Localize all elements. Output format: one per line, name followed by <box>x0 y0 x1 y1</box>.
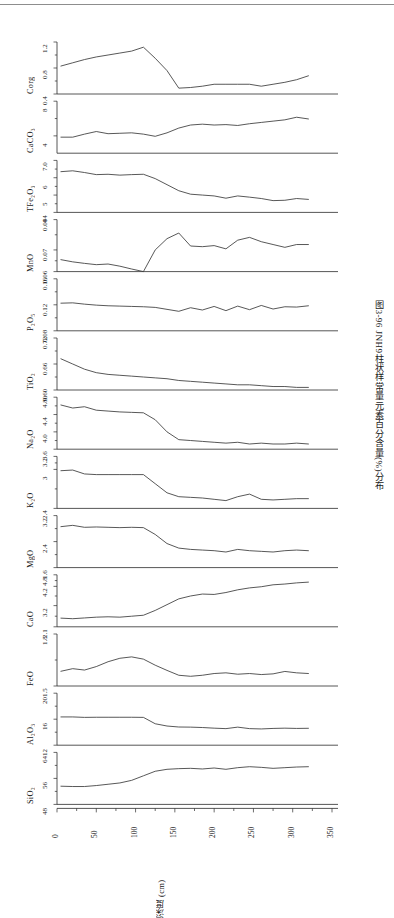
series-line-sio2 <box>61 767 309 787</box>
series-line-mgo <box>61 525 309 552</box>
series-line-corg <box>61 47 309 88</box>
y-axis-title-cao: CaO <box>26 577 35 627</box>
x-tick-label: 100 <box>130 814 139 838</box>
y-tick-label: 0.8 <box>41 57 49 79</box>
y-tick-label: 0.72 <box>41 327 49 349</box>
series-line-feo <box>61 657 309 676</box>
y-axis-title-na2o: Na₂O <box>26 399 35 449</box>
series-line-caco3 <box>61 117 309 137</box>
y-tick-label: 3 <box>41 458 49 480</box>
x-tick-label: 300 <box>287 814 296 838</box>
series-line-na2o <box>61 405 309 444</box>
y-tick-label: 64 <box>41 741 49 763</box>
x-tick-label: 50 <box>90 814 99 838</box>
y-axis-title-p2o5: P₂O₅ <box>26 281 35 331</box>
y-tick-label: 0.16 <box>41 268 49 290</box>
y-axis-title-tfe2o3: TFe₂O₃ <box>26 162 35 212</box>
y-axis-title-mno: MnO <box>26 222 35 272</box>
y-tick-label: 16 <box>41 708 49 730</box>
series-line-k2o <box>61 470 309 501</box>
y-tick-label: 3.2 <box>41 595 49 617</box>
y-tick-label: 0.12 <box>41 294 49 316</box>
y-tick-label: 8 <box>41 90 49 112</box>
y-axis-title-caco3: CaCO₃ <box>26 103 35 153</box>
y-tick-label: 20 <box>41 682 49 704</box>
x-axis-title: 深度 (cm) <box>155 840 167 918</box>
y-tick-label: 1.8 <box>41 623 49 645</box>
series-line-mno <box>61 233 309 272</box>
y-tick-label: 0.66 <box>41 353 49 375</box>
y-tick-label: 0.084 <box>41 209 49 231</box>
x-tick-label: 350 <box>326 814 335 838</box>
x-tick-label: 200 <box>208 814 217 838</box>
x-tick-label: 0 <box>51 814 60 838</box>
series-line-tfe2o3 <box>61 171 309 201</box>
series-line-tio2 <box>61 359 309 388</box>
y-axis-title-feo: FeO <box>26 636 35 686</box>
y-axis-title-sio2: SiO₂ <box>26 754 35 804</box>
y-tick-label: 1.2 <box>41 31 49 53</box>
y-tick-label: 48 <box>41 793 49 815</box>
y-axis-title-al2o3: Al₂O₃ <box>26 695 35 745</box>
series-line-al2o3 <box>61 717 309 729</box>
y-axis-title-mgo: MgO <box>26 518 35 568</box>
y-tick-label: 4 <box>41 125 49 147</box>
y-tick-label: 0.07 <box>41 239 49 261</box>
y-tick-label: 3.2 <box>41 505 49 527</box>
x-tick-label: 150 <box>169 814 178 838</box>
y-axis-title-k2o: K₂O <box>26 458 35 508</box>
y-axis-title-corg: Corg <box>26 44 35 94</box>
x-tick-label: 250 <box>247 814 256 838</box>
series-line-p2o5 <box>61 303 309 311</box>
series-line-cao <box>61 582 309 619</box>
y-tick-label: 56 <box>41 767 49 789</box>
y-tick-label: 2.4 <box>41 531 49 553</box>
y-axis-title-tio2: TiO₂ <box>26 340 35 390</box>
